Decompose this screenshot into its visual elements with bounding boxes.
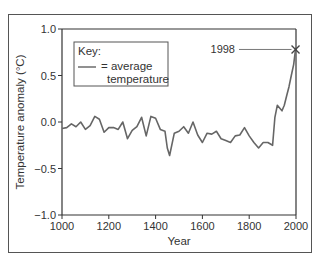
y-tick-label: 0.5	[41, 70, 56, 82]
annotation-1998: 1998	[211, 43, 300, 55]
legend-title: Key:	[78, 45, 101, 57]
y-tick-label: 0.0	[41, 116, 56, 128]
y-tick-label: −0.5	[34, 163, 56, 175]
x-tick-label: 2000	[284, 220, 308, 232]
x-tick-label: 1000	[50, 220, 74, 232]
x-tick-label: 1400	[143, 220, 167, 232]
legend-label: = average	[101, 60, 152, 72]
y-axis-title: Temperature anomaly (°C)	[14, 54, 26, 189]
y-tick-label: 1.0	[41, 23, 56, 35]
annotation-label: 1998	[211, 43, 235, 55]
y-ticks: 1.00.50.0−0.5−1.0	[34, 23, 62, 221]
chart-canvas: 1.00.50.0−0.5−1.0 1000120014001600180020…	[0, 0, 319, 259]
x-axis-title: Year	[167, 235, 190, 247]
legend: Key: = average temperature	[74, 42, 169, 86]
x-tick-label: 1600	[190, 220, 214, 232]
x-tick-label: 1200	[97, 220, 121, 232]
legend-label-cont: temperature	[107, 73, 169, 85]
x-ticks: 100012001400160018002000	[50, 215, 308, 232]
x-tick-label: 1800	[237, 220, 261, 232]
